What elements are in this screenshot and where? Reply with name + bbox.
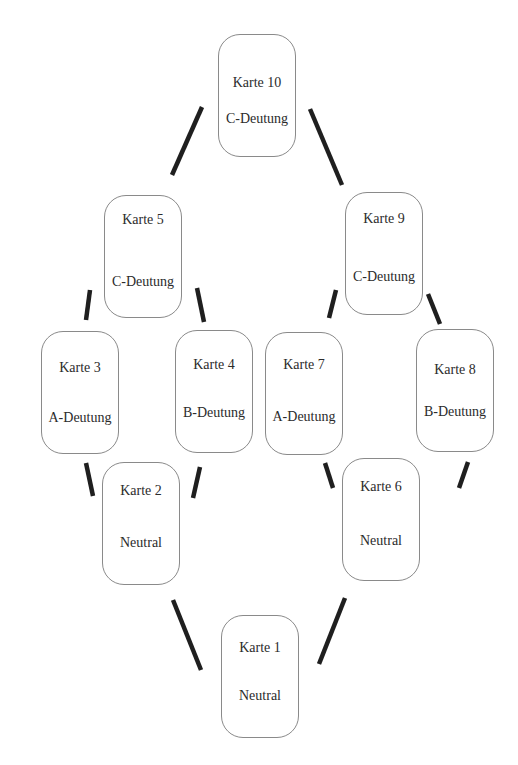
card-title: Karte 8 — [411, 362, 499, 378]
card-5: Karte 5 C-Deutung — [104, 195, 182, 318]
card-label: Neutral — [337, 533, 425, 549]
edge-card3-card5 — [86, 290, 90, 320]
card-sequence-diagram: Karte 10 C-Deutung Karte 5 C-Deutung Kar… — [0, 0, 518, 765]
card-8: Karte 8 B-Deutung — [416, 329, 494, 452]
card-7: Karte 7 A-Deutung — [265, 332, 343, 455]
edge-card2-card3 — [86, 463, 93, 496]
card-label: C-Deutung — [213, 111, 301, 127]
card-title: Karte 2 — [97, 483, 185, 499]
edge-card1-card2 — [173, 600, 201, 670]
card-label: C-Deutung — [340, 269, 428, 285]
card-title: Karte 6 — [337, 479, 425, 495]
card-9: Karte 9 C-Deutung — [345, 192, 423, 315]
card-title: Karte 7 — [260, 357, 348, 373]
edge-card4-card5 — [197, 288, 204, 322]
card-label: C-Deutung — [99, 274, 187, 290]
card-2: Karte 2 Neutral — [102, 462, 180, 585]
card-label: B-Deutung — [411, 404, 499, 420]
edge-card9-card10 — [310, 109, 342, 185]
card-label: Neutral — [216, 688, 304, 704]
edge-card6-card8 — [459, 462, 468, 488]
card-1: Karte 1 Neutral — [221, 615, 299, 738]
card-label: B-Deutung — [170, 405, 258, 421]
edge-card1-card6 — [319, 598, 345, 664]
card-label: A-Deutung — [36, 410, 124, 426]
card-title: Karte 10 — [213, 75, 301, 91]
card-title: Karte 4 — [170, 357, 258, 373]
edge-card7-card9 — [329, 290, 336, 318]
edge-card8-card9 — [428, 294, 440, 324]
card-3: Karte 3 A-Deutung — [41, 331, 119, 454]
edge-card5-card10 — [172, 107, 202, 175]
card-title: Karte 9 — [340, 211, 428, 227]
card-10: Karte 10 C-Deutung — [218, 34, 296, 157]
card-title: Karte 3 — [36, 360, 124, 376]
card-title: Karte 1 — [216, 640, 304, 656]
card-label: Neutral — [97, 535, 185, 551]
edge-card2-card4 — [193, 467, 200, 498]
edge-card6-card7 — [325, 463, 333, 488]
card-label: A-Deutung — [260, 409, 348, 425]
card-title: Karte 5 — [99, 212, 187, 228]
card-4: Karte 4 B-Deutung — [175, 330, 253, 453]
card-6: Karte 6 Neutral — [342, 458, 420, 581]
